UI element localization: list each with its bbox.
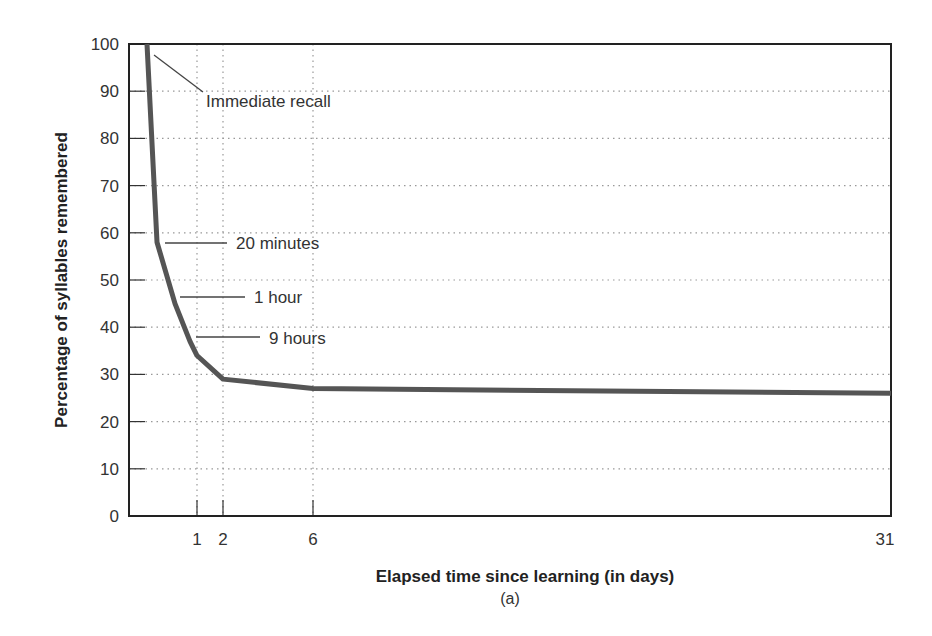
x-axis-ticks: 12631 <box>192 500 894 549</box>
y-tick-label: 50 <box>100 271 119 290</box>
y-tick-label: 100 <box>91 35 119 54</box>
annotation-leader <box>154 55 203 92</box>
forgetting-curve-chart: 0102030405060708090100 12631 Immediate r… <box>0 0 932 636</box>
curve-annotations: Immediate recall20 minutes1 hour9 hours <box>154 55 331 348</box>
y-tick-label: 90 <box>100 82 119 101</box>
x-tick-label: 6 <box>308 530 317 549</box>
gridlines <box>129 44 891 516</box>
y-tick-label: 80 <box>100 129 119 148</box>
x-axis-title: Elapsed time since learning (in days) <box>376 567 675 586</box>
y-tick-label: 0 <box>110 507 119 526</box>
annotation-label: 9 hours <box>269 329 326 348</box>
y-tick-label: 10 <box>100 460 119 479</box>
annotation-label: 20 minutes <box>236 234 319 253</box>
annotation-label: Immediate recall <box>206 92 331 111</box>
y-tick-label: 70 <box>100 177 119 196</box>
y-tick-label: 20 <box>100 413 119 432</box>
y-tick-label: 40 <box>100 318 119 337</box>
y-axis-title: Percentage of syllables remembered <box>52 132 71 428</box>
y-tick-label: 60 <box>100 224 119 243</box>
x-tick-label: 1 <box>192 530 201 549</box>
y-axis-ticks: 0102030405060708090100 <box>91 35 145 526</box>
annotation-label: 1 hour <box>254 288 303 307</box>
y-tick-label: 30 <box>100 365 119 384</box>
x-tick-label: 31 <box>876 530 895 549</box>
x-tick-label: 2 <box>218 530 227 549</box>
figure-caption: (a) <box>500 590 520 607</box>
